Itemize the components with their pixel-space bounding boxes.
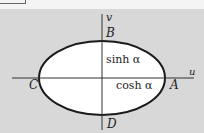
point-b-label: B [105,26,115,40]
ellipse-diagram: v u B C A D sinh α cosh α [0,0,204,133]
point-d-label: D [106,117,117,131]
point-c-label: C [29,78,38,92]
cosh-alpha-label: cosh α [116,79,153,92]
u-axis-label: u [189,66,195,77]
point-a-label: A [169,78,179,92]
v-axis-label: v [106,11,113,24]
sinh-alpha-label: sinh α [106,53,141,66]
